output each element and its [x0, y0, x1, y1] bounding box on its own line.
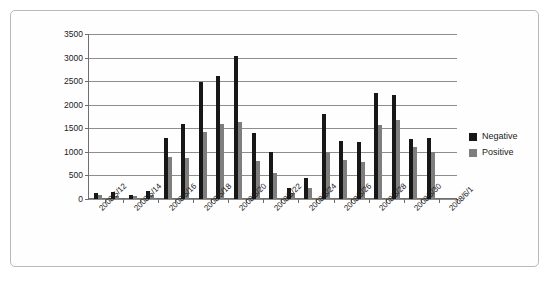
x-axis-label-slot: 2008/5/24 [299, 205, 317, 265]
x-axis-label-slot: 2008/5/14 [124, 205, 142, 265]
bar-group [299, 34, 317, 199]
x-axis-label-slot: 2008/5/28 [370, 205, 388, 265]
y-axis-tick-label: 1500 [64, 124, 83, 133]
bar-positive [343, 160, 347, 199]
bar-group [387, 34, 405, 199]
x-axis-label-slot [317, 205, 335, 265]
bar-group [282, 34, 300, 199]
bar-group [405, 34, 423, 199]
x-axis-label-slot [282, 205, 300, 265]
x-axis-label-slot: 2008/5/12 [89, 205, 107, 265]
bar-group [177, 34, 195, 199]
y-axis-tick-label: 1000 [64, 148, 83, 157]
bar-group [194, 34, 212, 199]
x-axis-label-slot [142, 205, 160, 265]
x-axis-label-slot: 2008/5/20 [229, 205, 247, 265]
y-axis-tick-label: 2000 [64, 100, 83, 109]
bar-positive [413, 147, 417, 199]
legend-label-positive: Positive [482, 148, 514, 157]
bar-group [229, 34, 247, 199]
bar-group [317, 34, 335, 199]
x-axis-label-slot [212, 205, 230, 265]
bar-group [107, 34, 125, 199]
x-axis-labels: 2008/5/122008/5/142008/5/162008/5/182008… [89, 205, 457, 265]
legend-swatch-negative-icon [469, 133, 477, 141]
x-axis-label-slot: 2008/5/16 [159, 205, 177, 265]
bar-group [124, 34, 142, 199]
x-axis-label-slot: 2008/6/1 [440, 205, 458, 265]
x-axis-label-slot: 2008/5/18 [194, 205, 212, 265]
bar-group [440, 34, 458, 199]
bar-series-container [89, 34, 457, 199]
bar-group [89, 34, 107, 199]
bar-positive [203, 132, 207, 199]
bar-group [422, 34, 440, 199]
legend-item-negative: Negative [469, 131, 539, 142]
x-axis-label-slot [107, 205, 125, 265]
bar-group [247, 34, 265, 199]
x-axis-label-slot: 2008/5/22 [264, 205, 282, 265]
x-axis-label-slot: 2008/5/26 [334, 205, 352, 265]
x-axis-label-slot: 2008/5/30 [405, 205, 423, 265]
y-axis-tick-label: 2500 [64, 77, 83, 86]
x-axis-label-slot [387, 205, 405, 265]
chart-frame: 0500100015002000250030003500 2008/5/1220… [10, 10, 539, 267]
legend-label-negative: Negative [482, 132, 518, 141]
x-axis-label-slot [422, 205, 440, 265]
bar-positive [273, 173, 277, 199]
y-axis-tick-label: 3000 [64, 53, 83, 62]
x-axis-label-slot [247, 205, 265, 265]
bar-positive [378, 125, 382, 199]
y-axis-tick-label: 3500 [64, 30, 83, 39]
bar-positive [168, 157, 172, 199]
bar-positive [238, 122, 242, 199]
legend-swatch-positive-icon [469, 149, 477, 157]
x-axis-label-slot [177, 205, 195, 265]
bar-group [142, 34, 160, 199]
bar-positive [308, 188, 312, 199]
y-axis-tick-label: 500 [69, 171, 83, 180]
bar-group [159, 34, 177, 199]
bar-group [352, 34, 370, 199]
legend-item-positive: Positive [469, 147, 539, 158]
y-axis-tick-label: 0 [78, 195, 83, 204]
bar-group [264, 34, 282, 199]
plot-area: 0500100015002000250030003500 2008/5/1220… [89, 34, 457, 199]
bar-group [334, 34, 352, 199]
bar-group [212, 34, 230, 199]
chart-legend: Negative Positive [469, 131, 539, 163]
bar-group [370, 34, 388, 199]
x-axis-label-slot [352, 205, 370, 265]
